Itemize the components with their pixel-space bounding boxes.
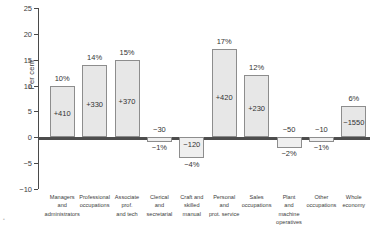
y-tick-label: 5 — [28, 107, 32, 116]
category-label-line: administrators — [41, 210, 83, 218]
y-tick-label: 25 — [24, 4, 32, 13]
y-axis-title: Per cent — [27, 45, 36, 105]
bar-count-label: −1550 — [330, 119, 377, 127]
y-tick — [34, 163, 38, 164]
bar[interactable] — [309, 137, 334, 142]
bar-count-label: +230 — [233, 105, 281, 113]
category-label-line: prot. service — [203, 210, 245, 218]
category-label-line: Whole — [333, 193, 375, 201]
bar-count-label: +370 — [103, 98, 151, 106]
plot-area: 2520151050−5−10 10%+41014%+33015%+370−30… — [38, 8, 370, 189]
page-artifact: • — [3, 216, 5, 222]
y-tick — [34, 8, 38, 9]
category-label-line: economy — [333, 201, 375, 209]
y-axis-line — [38, 8, 39, 189]
bar-count-label: −10 — [297, 126, 345, 134]
x-axis-category-label: Wholeeconomy — [333, 193, 375, 210]
bar-percent-label: 10% — [38, 75, 86, 83]
y-tick — [34, 137, 38, 138]
bar-percent-label: 15% — [103, 49, 151, 57]
y-tick — [34, 34, 38, 35]
y-tick-label: −10 — [19, 185, 32, 194]
bar-percent-label: −4% — [168, 161, 216, 169]
bar-chart: Per cent 2520151050−5−10 10%+41014%+3301… — [0, 0, 377, 229]
y-tick-label: 10 — [24, 82, 32, 91]
y-tick-label: 0 — [28, 133, 32, 142]
category-label-line: machine — [268, 210, 310, 218]
bar-percent-label: 17% — [200, 38, 248, 46]
bar-count-label: −30 — [135, 126, 183, 134]
y-tick-label: 15 — [24, 56, 32, 65]
y-tick-label: −5 — [23, 159, 32, 168]
y-tick — [34, 189, 38, 190]
bar-count-label: −120 — [168, 141, 216, 149]
y-tick — [34, 86, 38, 87]
y-tick — [34, 60, 38, 61]
y-tick-label: 20 — [24, 30, 32, 39]
category-label-line: operatives — [268, 218, 310, 226]
bar-count-label: +410 — [38, 110, 86, 118]
bar-percent-label: −1% — [297, 144, 345, 152]
bar-percent-label: 12% — [233, 64, 281, 72]
bar-count-label: +420 — [200, 94, 248, 102]
bar-percent-label: 6% — [330, 95, 377, 103]
